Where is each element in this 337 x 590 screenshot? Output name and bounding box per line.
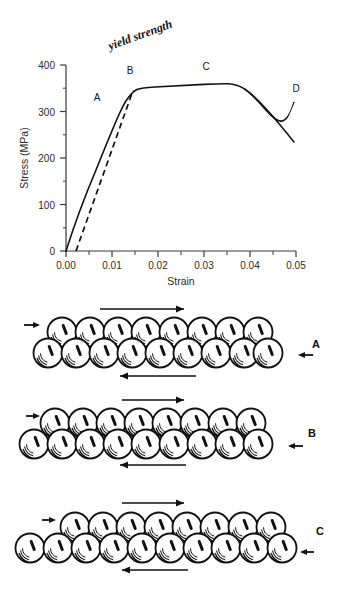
x-tick-label-0.02: 0.02 [148, 260, 168, 271]
panel-c: C [0, 490, 337, 590]
panel-a-right-side-arrow [298, 352, 313, 358]
panel-b-bottom-arrow [120, 462, 186, 469]
y-tick-label-400: 400 [38, 60, 55, 71]
x-tick-label-0.05: 0.05 [286, 260, 306, 271]
y-axis-title: Stress (MPa) [18, 127, 30, 188]
panel-b-left-side-arrow [26, 413, 40, 419]
panel-c-svg: C [0, 490, 337, 590]
panel-c-label: C [316, 525, 324, 537]
y-tick-label-300: 300 [38, 107, 55, 118]
panel-b-svg: B [0, 392, 337, 484]
panel-a-left-side-arrow [24, 322, 40, 328]
curve-point-label-b: B [127, 65, 134, 76]
curve-point-label-a: A [94, 92, 101, 103]
panel-b-bottom-row [20, 430, 273, 459]
panel-c-top-arrow [122, 500, 184, 507]
panel-c-right-side-arrow [300, 549, 314, 555]
elastic-offset-line [76, 91, 133, 252]
yield-strength-annotation: yield strength [104, 17, 174, 54]
stress-strain-chart: 400 300 200 100 0 0.00 0.01 0.02 0.03 0.… [0, 0, 337, 290]
x-axis-minor-ticks [89, 251, 273, 255]
panel-c-bottom-arrow [122, 567, 188, 574]
panel-c-left-side-arrow [42, 517, 56, 523]
panel-a: A [0, 300, 337, 392]
chart-svg: 400 300 200 100 0 0.00 0.01 0.02 0.03 0.… [0, 0, 337, 290]
curve-point-label-d: D [292, 83, 299, 94]
x-axis-title: Strain [167, 275, 195, 287]
panel-a-svg: A [0, 300, 337, 392]
stress-strain-curve [66, 84, 294, 251]
figure-root: 400 300 200 100 0 0.00 0.01 0.02 0.03 0.… [0, 0, 337, 590]
panel-a-label: A [312, 338, 320, 350]
panel-b-right-side-arrow [288, 443, 303, 449]
y-tick-label-200: 200 [38, 153, 55, 164]
curve-point-label-c: C [202, 61, 209, 72]
x-tick-label-0.03: 0.03 [194, 260, 214, 271]
panel-a-top-arrow [100, 306, 184, 313]
stress-strain-curve-tail [286, 103, 296, 126]
x-tick-label-0: 0.00 [56, 260, 76, 271]
y-axis-major-ticks [60, 65, 66, 251]
x-tick-label-0.01: 0.01 [102, 260, 122, 271]
y-tick-label-100: 100 [38, 200, 55, 211]
panel-b-top-arrow [122, 397, 184, 404]
panel-b: B [0, 392, 337, 484]
panel-b-label: B [308, 427, 316, 439]
panel-a-bottom-arrow [120, 373, 196, 380]
y-tick-label-0: 0 [49, 246, 55, 257]
stress-strain-curve-tail-ink [244, 89, 294, 142]
x-tick-label-0.04: 0.04 [240, 260, 260, 271]
panel-a-bottom-row [34, 339, 283, 368]
